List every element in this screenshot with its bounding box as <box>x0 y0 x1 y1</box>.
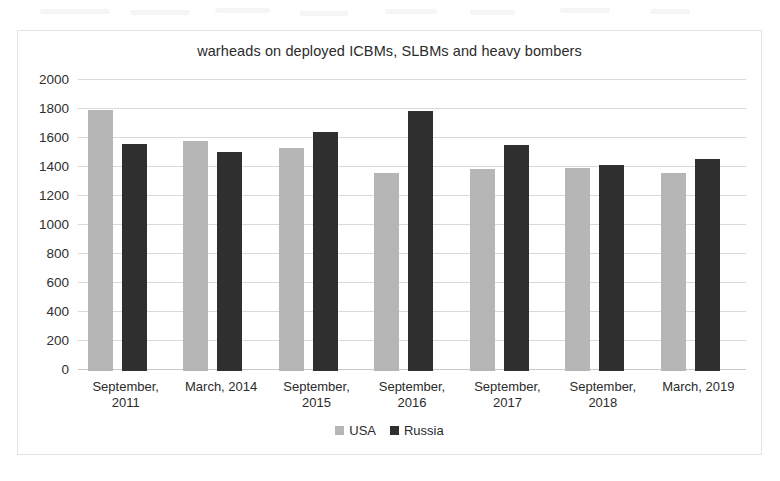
x-axis-label-line: 2016 <box>364 395 459 411</box>
bar-group <box>173 79 268 371</box>
chart-title: warheads on deployed ICBMs, SLBMs and he… <box>18 43 761 59</box>
bar-group <box>460 79 555 371</box>
x-axis-label-line: 2011 <box>78 395 173 411</box>
scan-smudge <box>650 9 690 14</box>
bar-usa-5[interactable] <box>470 169 495 371</box>
legend-item-russia[interactable]: Russia <box>390 423 444 438</box>
bar-russia-4[interactable] <box>408 111 433 371</box>
y-axis-tick-label: 1200 <box>39 188 69 203</box>
bar-russia-7[interactable] <box>695 159 720 371</box>
bar-russia-3[interactable] <box>313 132 338 371</box>
scan-smudge <box>470 10 515 15</box>
chart-legend: USARussia <box>18 423 761 438</box>
scan-artifact <box>0 0 780 22</box>
x-axis-label-1: September,2011 <box>78 379 173 411</box>
x-axis-label-line: March, 2014 <box>173 379 268 395</box>
bar-russia-1[interactable] <box>122 144 147 371</box>
bar-group <box>651 79 746 371</box>
bar-russia-6[interactable] <box>599 165 624 371</box>
legend-swatch-russia <box>390 426 399 435</box>
bar-usa-6[interactable] <box>565 168 590 371</box>
y-axis-tick-label: 1600 <box>39 130 69 145</box>
bar-usa-4[interactable] <box>374 173 399 371</box>
x-axis-label-line: September, <box>460 379 555 395</box>
bar-usa-3[interactable] <box>279 148 304 371</box>
x-axis-label-4: September,2016 <box>364 379 459 411</box>
scan-smudge <box>215 8 270 13</box>
scan-smudge <box>560 8 610 13</box>
legend-swatch-usa <box>335 426 344 435</box>
y-axis-tick-label: 200 <box>46 333 69 348</box>
y-axis-tick-label: 600 <box>46 275 69 290</box>
legend-item-usa[interactable]: USA <box>335 423 376 438</box>
plot-area: 0200400600800100012001400160018002000 <box>78 79 746 371</box>
y-axis-tick-label: 0 <box>61 362 69 377</box>
x-axis-label-line: 2018 <box>555 395 650 411</box>
x-axis-label-line: March, 2019 <box>651 379 746 395</box>
y-axis-tick-label: 1800 <box>39 101 69 116</box>
scan-smudge <box>130 10 190 15</box>
x-axis-label-line: September, <box>269 379 364 395</box>
x-axis-category-labels: September,2011March, 2014September,2015S… <box>78 375 746 421</box>
bar-usa-2[interactable] <box>183 141 208 371</box>
x-axis-label-6: September,2018 <box>555 379 650 411</box>
x-axis-label-line: September, <box>364 379 459 395</box>
bar-series-group <box>78 79 746 371</box>
y-axis-tick-label: 800 <box>46 246 69 261</box>
scan-smudge <box>300 11 348 16</box>
legend-label: USA <box>349 423 376 438</box>
bar-group <box>364 79 459 371</box>
y-axis-tick-label: 400 <box>46 304 69 319</box>
legend-label: Russia <box>404 423 444 438</box>
y-axis-tick-label: 1000 <box>39 217 69 232</box>
scan-smudge <box>40 9 110 14</box>
x-axis-label-5: September,2017 <box>460 379 555 411</box>
x-axis-label-7: March, 2019 <box>651 379 746 395</box>
bar-group <box>269 79 364 371</box>
bar-usa-1[interactable] <box>88 110 113 371</box>
x-axis-label-line: 2015 <box>269 395 364 411</box>
x-axis-label-line: 2017 <box>460 395 555 411</box>
bar-group <box>78 79 173 371</box>
x-axis-label-2: March, 2014 <box>173 379 268 395</box>
x-axis-label-3: September,2015 <box>269 379 364 411</box>
chart-container: warheads on deployed ICBMs, SLBMs and he… <box>17 30 762 455</box>
y-axis-tick-label: 2000 <box>39 72 69 87</box>
x-axis-label-line: September, <box>78 379 173 395</box>
x-axis-label-line: September, <box>555 379 650 395</box>
y-axis-tick-label: 1400 <box>39 159 69 174</box>
bar-russia-2[interactable] <box>217 152 242 371</box>
bar-usa-7[interactable] <box>661 173 686 371</box>
bar-group <box>555 79 650 371</box>
bar-russia-5[interactable] <box>504 145 529 371</box>
scan-smudge <box>385 9 437 14</box>
